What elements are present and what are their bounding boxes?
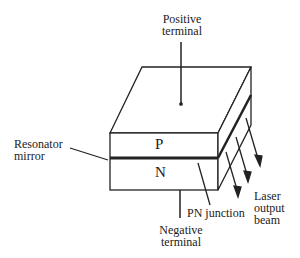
resonator-mirror-label: Resonator mirror bbox=[14, 138, 63, 162]
front-face bbox=[110, 133, 218, 190]
label-line: beam bbox=[254, 214, 285, 226]
laser-output-beam-label: Laser output beam bbox=[254, 190, 285, 226]
p-region-label: P bbox=[155, 136, 163, 153]
resonator-mirror-leader bbox=[70, 148, 108, 160]
label-line: terminal bbox=[156, 236, 206, 248]
label-line: mirror bbox=[14, 150, 63, 162]
positive-terminal-label: Positive terminal bbox=[160, 13, 204, 37]
pn-junction-label: PN junction bbox=[187, 207, 245, 219]
n-region-label: N bbox=[155, 164, 166, 181]
negative-terminal-label: Negative terminal bbox=[156, 224, 206, 248]
label-line: terminal bbox=[160, 25, 204, 37]
